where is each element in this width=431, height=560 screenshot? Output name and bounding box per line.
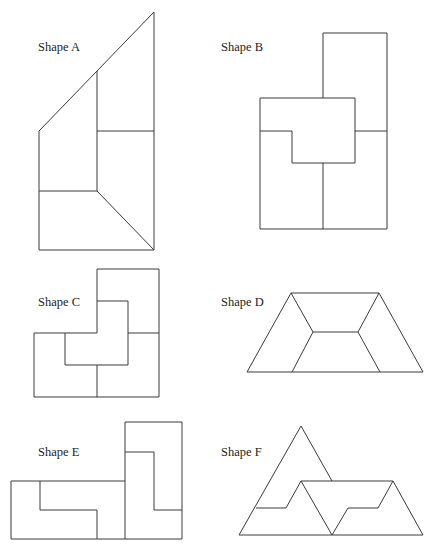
shape-f-figure	[239, 426, 423, 535]
shape-edge	[239, 426, 423, 535]
shape-b-figure	[260, 33, 387, 229]
shape-edge	[40, 481, 97, 539]
shape-c-figure	[34, 269, 159, 397]
shape-c-label: Shape C	[38, 296, 80, 309]
shape-edge	[125, 452, 182, 510]
shape-edge	[97, 191, 154, 250]
shape-edge	[291, 293, 379, 332]
shape-edge	[332, 481, 393, 535]
shape-e-label: Shape E	[38, 446, 79, 459]
shape-edge	[292, 332, 313, 372]
shape-d-label: Shape D	[221, 296, 264, 309]
shape-edge	[256, 481, 332, 535]
shape-d-figure	[247, 293, 423, 372]
shape-edge	[260, 98, 355, 163]
shape-a-label: Shape A	[38, 41, 80, 54]
shapes-canvas	[0, 0, 431, 560]
shape-edge	[358, 332, 380, 372]
shape-edge	[301, 426, 332, 481]
shape-f-label: Shape F	[221, 446, 262, 459]
shape-b-label: Shape B	[221, 41, 263, 54]
shape-e-figure	[11, 422, 182, 539]
